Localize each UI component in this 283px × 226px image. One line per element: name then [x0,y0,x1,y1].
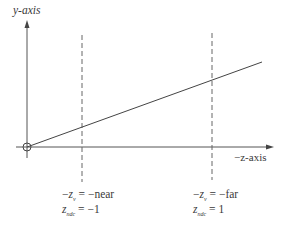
near-plane-label-line2: zndc = −1 [62,204,100,217]
far-plane-label-line2: zndc = 1 [193,204,224,217]
near-ndc-sub: ndc [66,211,75,217]
near-plane-label-line1: −zv = −near [62,189,114,202]
far-plane-label-line1: −zv = −far [193,189,238,202]
projection-diagram [0,0,283,226]
far-ndc-sub: ndc [197,211,206,217]
x-axis-label: −z-axis [234,152,266,163]
far-rhs: = −far [207,188,239,200]
y-axis-label-text: y-axis [13,4,40,16]
projection-ray-line [27,62,262,147]
y-axis-label: y-axis [13,5,40,17]
y-axis-arrow-icon [25,20,30,28]
near-ndc-rhs: = −1 [75,203,99,215]
far-ndc-rhs: = 1 [206,203,224,215]
x-axis-arrow-icon [266,145,274,150]
x-axis-label-text: −z-axis [234,151,266,163]
near-rhs: = −near [76,188,115,200]
